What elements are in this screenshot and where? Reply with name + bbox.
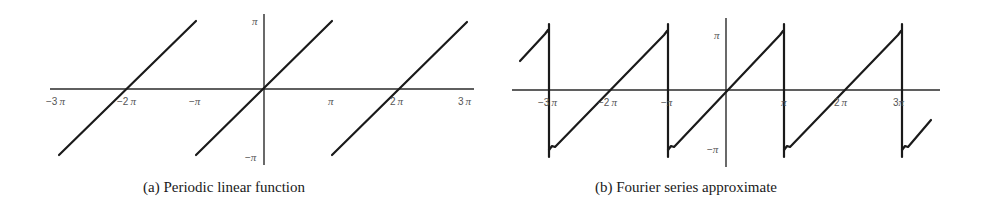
tick-label-b-3pi: 3π bbox=[893, 97, 904, 108]
figure-a-periodic-linear-function: −3 π −2 π −π π 2 π 3 π π −π (a) Periodic… bbox=[0, 0, 490, 223]
tick-label-a-pi: π bbox=[328, 96, 334, 107]
tick-label-a-minus-3pi: −3 π bbox=[46, 96, 65, 107]
tick-label-b-pi: π bbox=[781, 97, 787, 108]
tick-label-a-minus-pi: −π bbox=[189, 96, 200, 107]
series-a-segments bbox=[59, 21, 467, 155]
tick-label-b-minus-2pi: −2 π bbox=[598, 97, 617, 108]
tick-label-b-minus-3pi: −3 π bbox=[538, 97, 557, 108]
segment-a-1 bbox=[59, 21, 196, 155]
caption-b: (b) Fourier series approximate bbox=[595, 180, 777, 195]
ramp-b-4 bbox=[902, 120, 931, 150]
ramp-b-0 bbox=[520, 30, 549, 61]
caption-a: (a) Periodic linear function bbox=[143, 180, 305, 195]
tick-label-a-y-pi: π bbox=[252, 16, 258, 27]
figure-b-fourier-series-approximate: −3 π −2 π −π π 2 π 3π π −π (b) Fourier s… bbox=[490, 0, 983, 223]
tick-label-b-y-minus-pi: −π bbox=[707, 144, 718, 155]
tick-label-b-2pi: 2 π bbox=[834, 97, 847, 108]
tick-label-b-y-pi: π bbox=[714, 30, 720, 41]
tick-label-b-minus-pi: −π bbox=[661, 97, 672, 108]
tick-label-a-2pi: 2 π bbox=[390, 96, 403, 107]
tick-label-a-y-minus-pi: −π bbox=[245, 152, 256, 163]
tick-label-a-minus-2pi: −2 π bbox=[117, 96, 136, 107]
tick-label-a-3pi: 3 π bbox=[458, 96, 471, 107]
